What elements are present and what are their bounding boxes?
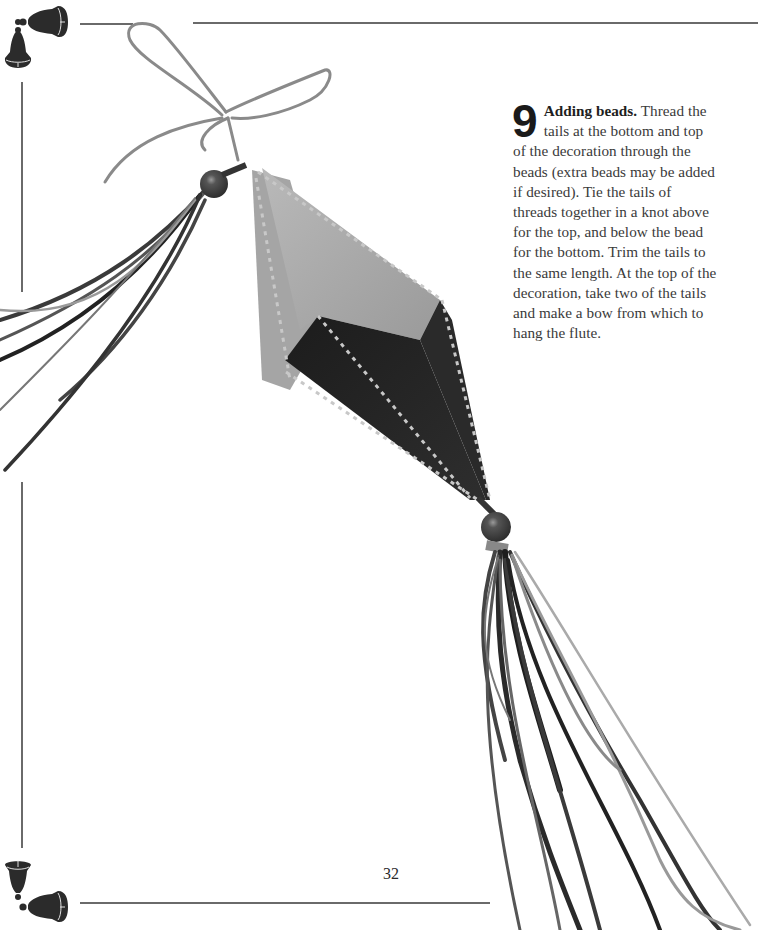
instruction-step: 9Adding beads. Thread the tails at the b… — [513, 101, 718, 343]
bottom-tassel — [483, 552, 750, 930]
ribbon-bow — [105, 23, 330, 182]
diamond-ornament — [252, 168, 490, 500]
page-number: 32 — [383, 865, 399, 883]
step-number: 9 — [512, 103, 538, 139]
bottom-bead — [481, 512, 511, 542]
step-title: Adding beads. — [544, 102, 638, 119]
top-tassel — [0, 190, 205, 470]
step-body: Thread the tails at the bottom and top o… — [513, 102, 716, 341]
